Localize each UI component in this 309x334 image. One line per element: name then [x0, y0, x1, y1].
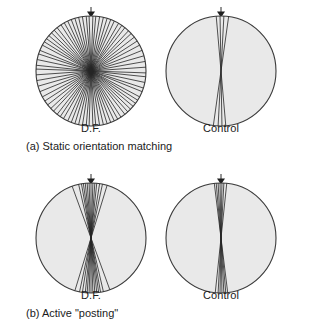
plot-label-a-df: D.F. [26, 122, 156, 135]
polar-plot-a-df-canvas [26, 6, 156, 136]
panel-b-caption: (b) Active "posting" [26, 307, 118, 320]
panel-a: D.F. Control (a) Static orientation matc… [0, 0, 309, 167]
panel-b: D.F. Control (b) Active "posting" [0, 167, 309, 334]
plot-label-a-control: Control [156, 122, 286, 135]
figure-orientation-settings: D.F. Control (a) Static orientation matc… [0, 0, 309, 334]
polar-plot-b-control-canvas [156, 173, 286, 303]
polar-plot-b-df-canvas [26, 173, 156, 303]
polar-plot-a-control [156, 6, 286, 136]
polar-plot-a-df [26, 6, 156, 136]
polar-plot-b-df [26, 173, 156, 303]
plot-label-b-control: Control [156, 289, 286, 302]
polar-plot-b-control [156, 173, 286, 303]
polar-plot-a-control-canvas [156, 6, 286, 136]
plot-label-b-df: D.F. [26, 289, 156, 302]
panel-a-caption: (a) Static orientation matching [26, 140, 172, 153]
